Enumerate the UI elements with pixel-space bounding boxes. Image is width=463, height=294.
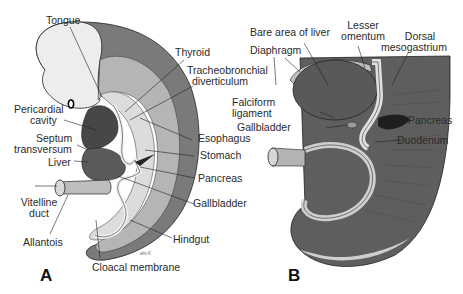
label-gallbladder: Gallbladder: [193, 198, 247, 209]
liver-b: [293, 60, 377, 120]
label-cavity: cavity: [30, 115, 57, 126]
label-diaphragm: Diaphragm: [250, 45, 301, 56]
label-esophagus: Esophagus: [198, 133, 251, 144]
label-duodenum: Duodenum: [397, 135, 448, 146]
eye-icon: [68, 100, 73, 108]
panel-letter-b: B: [288, 266, 300, 286]
artist-signature: als-K: [140, 248, 151, 259]
label-ligament: ligament: [232, 108, 272, 119]
label-allantois: Allantois: [23, 237, 63, 248]
label-transversum: transversum: [14, 144, 72, 155]
head-lobe: [36, 22, 102, 108]
vitelline-duct: [58, 180, 111, 194]
label-gallbladder-b: Gallbladder: [237, 122, 291, 133]
label-tongue: Tongue: [46, 15, 80, 26]
label-thyroid: Thyroid: [175, 47, 210, 58]
vitelline-duct-b-end: [268, 148, 278, 166]
vitelline-duct-end: [55, 180, 65, 196]
label-pancreas-b: Pancreas: [408, 115, 452, 126]
label-duct: duct: [14, 208, 64, 219]
liver: [82, 148, 125, 180]
label-mesogastrium: mesogastrium: [381, 42, 447, 53]
label-bare-area-of-liver: Bare area of liver: [250, 27, 330, 38]
label-hindgut: Hindgut: [173, 234, 209, 245]
panel-letter-a: A: [40, 266, 52, 286]
label-liver: Liver: [48, 157, 71, 168]
label-diverticulum: diverticulum: [192, 76, 248, 87]
pericardial-cavity: [82, 106, 118, 150]
gallbladder-b: [347, 122, 357, 128]
label-stomach: Stomach: [200, 150, 241, 161]
label-pancreas: Pancreas: [198, 173, 242, 184]
label-cloacal-membrane: Cloacal membrane: [92, 262, 180, 273]
